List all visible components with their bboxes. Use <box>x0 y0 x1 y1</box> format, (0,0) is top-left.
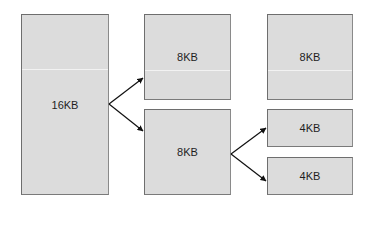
block-label: 4KB <box>300 170 321 182</box>
arrow-8kb-to-4kb-a <box>231 128 266 154</box>
block-label: 8KB <box>300 51 321 63</box>
arrow-16kb-to-8kb-a <box>109 78 143 104</box>
block-label: 8KB <box>177 146 198 158</box>
arrow-8kb-to-4kb-b <box>231 154 266 181</box>
block-label: 4KB <box>300 122 321 134</box>
arrow-16kb-to-8kb-b <box>109 104 143 131</box>
block-label: 8KB <box>177 51 198 63</box>
block-label: 16KB <box>52 99 79 111</box>
